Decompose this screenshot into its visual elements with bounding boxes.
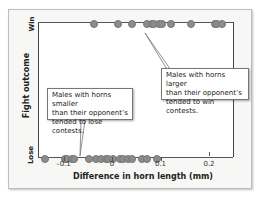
callout-smaller-line-2: than their opponent’s — [52, 109, 128, 118]
callout-larger-line-2: than their opponent’s — [166, 89, 244, 98]
callout-smaller-line-1: Males with horns smaller — [52, 91, 128, 109]
callout-larger-line-1: Males with horns larger — [166, 71, 244, 89]
callout-larger-line-3: tended to win contests. — [166, 98, 244, 116]
callout-smaller: Males with horns smaller than their oppo… — [47, 88, 133, 120]
callout-smaller-line-3: tended to lose contests. — [52, 118, 128, 136]
callout-larger: Males with horns larger than their oppon… — [161, 68, 249, 100]
